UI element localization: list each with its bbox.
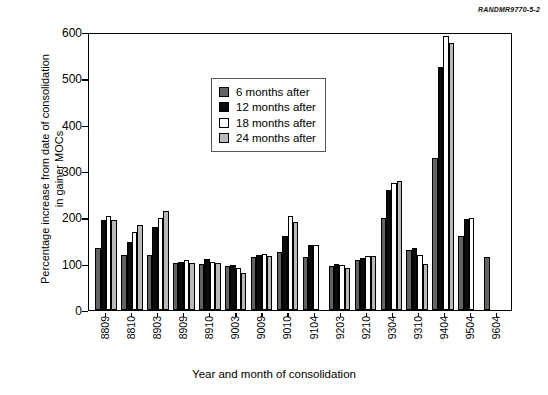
x-tick-label: 9009	[255, 316, 267, 339]
legend-item: 24 months after	[219, 131, 316, 147]
x-tick-cell: 8909	[170, 313, 196, 367]
bar[interactable]	[423, 264, 428, 310]
bar-group	[326, 34, 352, 310]
bar[interactable]	[293, 222, 298, 310]
x-tick-label: 9604	[490, 316, 502, 339]
y-axis-tick-labels: 0100200300400500600	[48, 24, 82, 320]
y-tick-mark	[82, 79, 88, 80]
bar-group	[404, 34, 430, 310]
bar-group	[482, 34, 508, 310]
bar[interactable]	[469, 218, 474, 310]
legend-swatch-12-months	[219, 102, 229, 112]
legend-swatch-24-months	[219, 133, 229, 143]
legend-label-12-months: 12 months after	[236, 101, 316, 113]
bar[interactable]	[371, 256, 376, 310]
x-tick-label: 8810	[125, 316, 137, 339]
x-tick-cell: 9304	[379, 313, 405, 367]
y-tick-label: 200	[62, 212, 82, 224]
bar[interactable]	[345, 268, 350, 310]
y-tick-mark	[82, 311, 88, 312]
bar-group	[456, 34, 482, 310]
source-id-label: RANDMR9770-5-2	[478, 6, 540, 13]
x-tick-cell: 9210	[353, 313, 379, 367]
x-tick-cell: 9104	[301, 313, 327, 367]
bar[interactable]	[267, 256, 272, 310]
x-tick-cell: 9310	[405, 313, 431, 367]
bar-group	[171, 34, 197, 310]
plot-area: 6 months after 12 months after 18 months…	[88, 33, 512, 311]
x-tick-cell: 9604	[483, 313, 509, 367]
x-tick-cell: 9504	[457, 313, 483, 367]
bar[interactable]	[397, 181, 402, 310]
bar-group	[197, 34, 223, 310]
legend-item: 12 months after	[219, 100, 316, 116]
bar-groups	[89, 34, 511, 310]
x-tick-label: 8809	[99, 316, 111, 339]
bar-group	[378, 34, 404, 310]
y-tick-mark	[82, 265, 88, 266]
bar-group	[93, 34, 119, 310]
bar[interactable]	[449, 43, 454, 310]
legend: 6 months after 12 months after 18 months…	[211, 78, 326, 152]
y-tick-mark	[82, 172, 88, 173]
bar-group	[352, 34, 378, 310]
x-tick-cell: 8810	[118, 313, 144, 367]
x-tick-cell: 8910	[196, 313, 222, 367]
y-tick-label: 0	[75, 305, 82, 317]
y-tick-label: 100	[62, 259, 82, 271]
x-axis-tick-labels: 8809881089038909891090039009901091049203…	[88, 313, 512, 367]
y-tick-mark	[82, 218, 88, 219]
bar[interactable]	[163, 211, 168, 310]
x-tick-cell: 9009	[248, 313, 274, 367]
y-tick-label: 500	[62, 73, 82, 85]
y-tick-label: 400	[62, 120, 82, 132]
bar[interactable]	[484, 257, 489, 310]
x-tick-label: 9304	[386, 316, 398, 339]
y-tick-label: 300	[62, 166, 82, 178]
bar-group	[430, 34, 456, 310]
x-axis-title: Year and month of consolidation	[0, 368, 548, 380]
x-tick-label: 9504	[464, 316, 476, 339]
bar[interactable]	[241, 273, 246, 310]
x-tick-label: 9104	[308, 316, 320, 339]
legend-swatch-18-months	[219, 118, 229, 128]
bar[interactable]	[189, 263, 194, 310]
bar[interactable]	[215, 263, 220, 310]
bar-group	[275, 34, 301, 310]
x-tick-cell: 8809	[92, 313, 118, 367]
x-tick-cell: 9003	[222, 313, 248, 367]
x-tick-label: 8909	[177, 316, 189, 339]
bar-group	[249, 34, 275, 310]
x-tick-label: 8910	[203, 316, 215, 339]
x-tick-label: 9010	[281, 316, 293, 339]
bar-group	[119, 34, 145, 310]
y-tick-mark	[82, 33, 88, 34]
bar-group	[145, 34, 171, 310]
x-tick-label: 9210	[360, 316, 372, 339]
legend-label-24-months: 24 months after	[236, 132, 316, 144]
x-tick-label: 9310	[412, 316, 424, 339]
x-tick-cell: 9203	[327, 313, 353, 367]
x-tick-cell: 9404	[431, 313, 457, 367]
bar[interactable]	[313, 245, 318, 310]
x-tick-label: 9404	[438, 316, 450, 339]
legend-item: 6 months after	[219, 84, 316, 100]
bar[interactable]	[137, 225, 142, 310]
x-tick-label: 9203	[334, 316, 346, 339]
y-tick-label: 600	[62, 27, 82, 39]
legend-label-6-months: 6 months after	[236, 86, 310, 98]
bar-group	[301, 34, 327, 310]
x-tick-label: 9003	[229, 316, 241, 339]
y-tick-mark	[82, 126, 88, 127]
x-tick-label: 8903	[151, 316, 163, 339]
x-tick-cell: 9010	[274, 313, 300, 367]
legend-item: 18 months after	[219, 115, 316, 131]
legend-swatch-6-months	[219, 87, 229, 97]
x-tick-cell: 8903	[144, 313, 170, 367]
bar-group	[223, 34, 249, 310]
legend-label-18-months: 18 months after	[236, 117, 316, 129]
chart-canvas: RANDMR9770-5-2 Percentage increase from …	[0, 0, 548, 395]
bar[interactable]	[111, 220, 116, 310]
